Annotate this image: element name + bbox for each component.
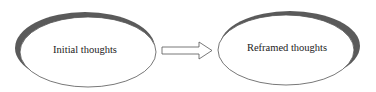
node-label: Reframed thoughts [247,42,327,53]
arrow-right-icon [162,42,212,59]
node-reframed-thoughts: Reframed thoughts [218,11,360,85]
node-initial-thoughts: Initial thoughts [15,12,156,87]
node-label: Initial thoughts [53,44,117,55]
diagram-canvas: Initial thoughts Reframed thoughts [0,0,376,92]
